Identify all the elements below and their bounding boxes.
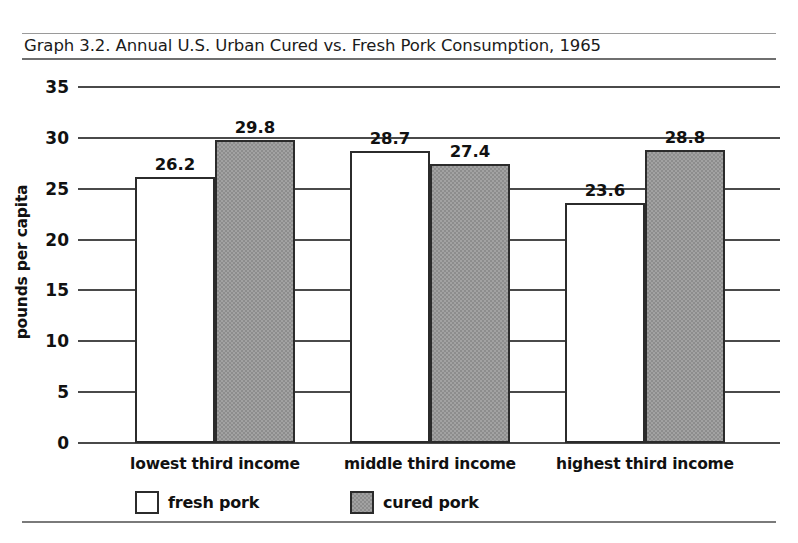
bar-value-label: 29.8 (235, 118, 276, 137)
legend-item-cured-pork[interactable]: cured pork (350, 488, 479, 516)
bar-value-label: 27.4 (450, 142, 491, 161)
bar-cured-pork-lowest[interactable]: 29.8 (215, 140, 295, 443)
y-axis-tick-label: 0 (57, 433, 69, 453)
x-axis-category-label: lowest third income (130, 455, 300, 473)
y-axis-tick-label: 10 (45, 331, 69, 351)
bar-value-label: 23.6 (585, 181, 626, 200)
bar-fresh-pork-lowest[interactable]: 26.2 (135, 177, 215, 443)
chart-legend: fresh pork cured pork (0, 488, 798, 516)
plot-area: 0510152025303526.229.828.727.423.628.8 (78, 87, 780, 443)
legend-label: fresh pork (168, 493, 259, 512)
bar-fresh-pork-middle[interactable]: 28.7 (350, 151, 430, 443)
y-axis-tick-label: 35 (45, 77, 69, 97)
gray-swatch-icon (350, 491, 374, 514)
y-axis-tick-label: 15 (45, 280, 69, 300)
y-axis-tick-label: 30 (45, 128, 69, 148)
y-axis-tick-label: 25 (45, 179, 69, 199)
bar-value-label: 26.2 (155, 155, 196, 174)
y-axis-title: pounds per capita (13, 185, 31, 340)
bar-fresh-pork-highest[interactable]: 23.6 (565, 203, 645, 443)
gridline (78, 86, 780, 88)
bar-cured-pork-highest[interactable]: 28.8 (645, 150, 725, 443)
chart-figure: Graph 3.2. Annual U.S. Urban Cured vs. F… (0, 0, 798, 543)
bar-cured-pork-middle[interactable]: 27.4 (430, 164, 510, 443)
x-axis-category-label: middle third income (344, 455, 516, 473)
bar-value-label: 28.7 (370, 129, 411, 148)
caption-rule-bottom (22, 58, 776, 60)
y-axis-tick-label: 20 (45, 230, 69, 250)
white-swatch-icon (135, 491, 159, 514)
chart-caption: Graph 3.2. Annual U.S. Urban Cured vs. F… (24, 34, 774, 58)
legend-item-fresh-pork[interactable]: fresh pork (135, 488, 259, 516)
legend-label: cured pork (383, 493, 479, 512)
figure-rule-bottom (22, 521, 776, 523)
x-axis-category-label: highest third income (556, 455, 734, 473)
bar-value-label: 28.8 (665, 128, 706, 147)
y-axis-tick-label: 5 (57, 382, 69, 402)
